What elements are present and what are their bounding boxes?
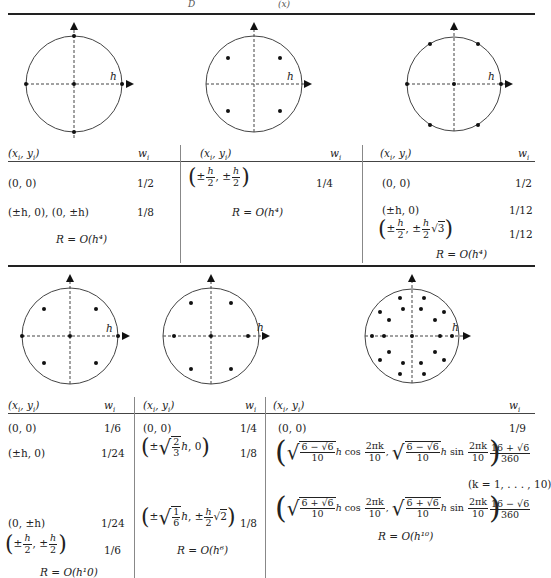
node-cell: (±h, 0) (8, 448, 45, 459)
node-cell: (0, 0) (278, 423, 306, 434)
col-header-w: wi (509, 400, 520, 414)
node-cell: (0, 0) (8, 423, 36, 434)
node-cell-outer-ring: (√6 + √610h cos 2πk10, √6 + √610h sin 2π… (275, 493, 501, 523)
k-range: (k = 1, . . . , 10) (468, 479, 551, 490)
node-cell-fraction: (±h2, ±h2) (5, 533, 67, 555)
weight-cell: 1/9 (509, 423, 526, 434)
node-cell: (0, ±h) (8, 518, 45, 529)
weight-cell: 1/4 (240, 423, 257, 434)
axis-label-h-4: h (106, 323, 113, 334)
weight-cell: 1/6 (104, 545, 121, 556)
circle-diagram-6 (365, 280, 465, 383)
error-term: R = O(h¹⁰) (378, 531, 433, 542)
col-header-xy: (xi, yi) (143, 400, 174, 414)
weight-cell: 1/8 (240, 448, 257, 459)
axis-label-h-5: h (257, 322, 264, 333)
node-cell: (0, 0) (143, 423, 171, 434)
weight-cell-fraction: 16 − √6360 (489, 499, 531, 521)
col-header-xy: (xi, yi) (273, 400, 304, 414)
col-header-xy: (xi, yi) (8, 400, 39, 414)
node-cell-sqrt: (±√23h, 0) (141, 436, 210, 459)
weight-cell-fraction: 16 + √6360 (489, 443, 531, 465)
weight-cell: 1/6 (104, 423, 121, 434)
weight-cell: 1/24 (101, 518, 125, 529)
error-term: R = O(h⁶) (177, 545, 228, 556)
bottom-table-divider-1 (134, 397, 135, 578)
node-cell-inner-ring: (√6 − √610h cos 2πk10, √6 − √610h sin 2π… (275, 437, 501, 467)
weight-cell: 1/8 (240, 518, 257, 529)
bottom-table-header-rule (8, 413, 535, 414)
col-header-w: wi (104, 400, 115, 414)
bottom-table-divider-2 (265, 397, 266, 578)
node-cell-sqrt: (±√16h, ±h2√2) (141, 506, 236, 529)
weight-cell: 1/24 (101, 448, 125, 459)
error-term: R = O(h¹0) (40, 567, 98, 578)
axis-label-h-6: h (452, 322, 459, 333)
col-header-w: wi (245, 400, 256, 414)
circle-diagram-5 (163, 280, 264, 384)
